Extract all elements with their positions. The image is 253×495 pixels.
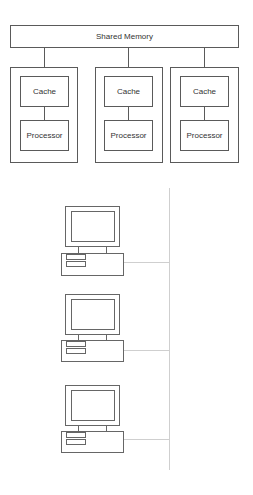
cache-label: Cache: [33, 87, 56, 96]
monitor-screen: [71, 211, 115, 242]
drive-bay-2: [66, 439, 86, 445]
processor-label: Processor: [186, 131, 222, 140]
bus-connector-2: [128, 47, 129, 68]
processor-box-3: Processor: [180, 120, 229, 151]
network-backbone-line: [169, 188, 170, 470]
monitor-screen: [71, 299, 115, 330]
bus-connector-1: [44, 47, 45, 68]
drive-bay-1: [66, 254, 86, 260]
cache-label: Cache: [193, 87, 216, 96]
cache-processor-link-1: [44, 106, 45, 121]
drive-bay-2: [66, 348, 86, 354]
network-link-1: [124, 262, 169, 263]
drive-bay-1: [66, 341, 86, 347]
shared-memory-box: Shared Memory: [10, 25, 239, 48]
cache-label: Cache: [117, 87, 140, 96]
network-link-2: [124, 350, 169, 351]
shared-memory-label: Shared Memory: [96, 32, 153, 41]
monitor-screen: [71, 390, 115, 421]
cache-box-3: Cache: [180, 76, 229, 107]
cache-box-2: Cache: [104, 76, 153, 107]
drive-bay-2: [66, 261, 86, 267]
processor-box-2: Processor: [104, 120, 153, 151]
cache-processor-link-2: [128, 106, 129, 121]
processor-box-1: Processor: [20, 120, 69, 151]
drive-bay-1: [66, 432, 86, 438]
processor-label: Processor: [26, 131, 62, 140]
processor-label: Processor: [110, 131, 146, 140]
cache-box-1: Cache: [20, 76, 69, 107]
bus-connector-3: [204, 47, 205, 68]
cache-processor-link-3: [204, 106, 205, 121]
network-link-3: [124, 439, 169, 440]
